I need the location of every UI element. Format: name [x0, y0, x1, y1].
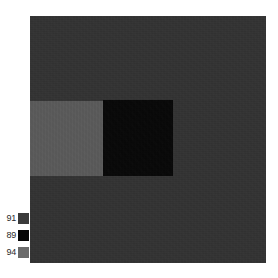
gray-region — [30, 101, 103, 176]
legend-label-94: 94 — [6, 248, 16, 257]
legend-swatch-94 — [18, 247, 29, 258]
legend-item-94: 94 — [3, 244, 29, 261]
legend-label-91: 91 — [6, 214, 16, 223]
legend-item-89: 89 — [3, 227, 29, 244]
black-region — [103, 100, 173, 176]
legend-swatch-89 — [18, 230, 29, 241]
legend-swatch-91 — [18, 213, 29, 224]
figure-canvas: 91 89 94 — [0, 0, 278, 278]
class-legend: 91 89 94 — [3, 210, 29, 261]
segmentation-panel — [30, 16, 266, 263]
legend-label-89: 89 — [6, 231, 16, 240]
legend-item-91: 91 — [3, 210, 29, 227]
